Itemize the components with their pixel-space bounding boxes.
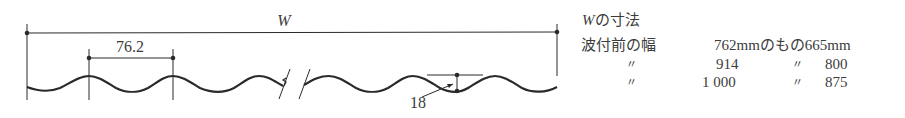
width-label: W (277, 12, 292, 29)
row-1-before: 762mm (714, 37, 760, 53)
row-header: 波付前の幅 (581, 38, 656, 53)
table-title-rest: の寸法 (595, 12, 640, 28)
row-1-connector: のもの (760, 37, 805, 53)
overall-width-dimension (25, 24, 560, 100)
row-2-ditto: 〃 (626, 57, 637, 72)
row-1-value: 762mmのもの665mm (714, 38, 851, 53)
corrugated-sheet-diagram: W 76.2 18 (0, 0, 905, 118)
wave-left (27, 76, 283, 92)
pitch-label: 76.2 (116, 38, 144, 55)
row-1-after: 665mm (805, 37, 851, 53)
row-2-after: 800 (825, 57, 848, 72)
row-2-connector: 〃 (792, 57, 803, 72)
depth-label: 18 (410, 94, 426, 111)
row-3-before: 1 000 (702, 75, 736, 90)
table-title: Wの寸法 (582, 13, 640, 28)
row-2-before: 914 (716, 57, 739, 72)
row-3-ditto: 〃 (626, 75, 637, 90)
table-title-var: W (582, 12, 595, 28)
row-3-connector: 〃 (792, 75, 803, 90)
wave-right (304, 76, 557, 92)
row-3-after: 875 (825, 75, 848, 90)
